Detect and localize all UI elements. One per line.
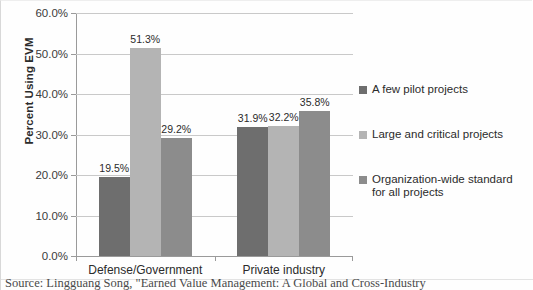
- y-tick-label: 0.0%: [42, 250, 68, 262]
- bar-value-label: 32.2%: [269, 111, 299, 123]
- source-caption-strip: Source: Lingguang Song, "Earned Value Ma…: [1, 279, 533, 290]
- bar-value-label: 29.2%: [161, 123, 191, 135]
- x-tick-mark: [215, 256, 216, 261]
- bar-value-label: 19.5%: [99, 162, 129, 174]
- x-tick-mark: [76, 256, 77, 261]
- gridline: [76, 94, 353, 95]
- gridline: [76, 54, 353, 55]
- y-tick-label: 40.0%: [35, 88, 68, 100]
- legend-item[interactable]: A few pilot projects: [359, 83, 468, 96]
- bar-value-label: 51.3%: [130, 33, 160, 45]
- x-tick-mark: [352, 256, 353, 261]
- y-tick-mark: [71, 13, 76, 14]
- gridline: [76, 13, 353, 14]
- bar-value-label: 31.9%: [238, 112, 268, 124]
- x-category-label: Private industry: [242, 263, 325, 277]
- y-tick-label: 30.0%: [35, 129, 68, 141]
- y-tick-label: 20.0%: [35, 169, 68, 181]
- legend-swatch-icon: [359, 176, 367, 184]
- bar: [130, 48, 161, 256]
- source-caption-text: Source: Lingguang Song, "Earned Value Ma…: [5, 279, 426, 290]
- y-tick-label: 50.0%: [35, 48, 68, 60]
- legend-item-label: Organization-wide standard for all proje…: [372, 173, 513, 199]
- legend-item-label: A few pilot projects: [372, 83, 468, 96]
- y-tick-mark: [71, 175, 76, 176]
- bar: [237, 127, 268, 256]
- legend-swatch-icon: [359, 86, 367, 94]
- bar-value-label: 35.8%: [300, 96, 330, 108]
- legend-swatch-icon: [359, 131, 367, 139]
- bar: [268, 126, 299, 256]
- legend-item[interactable]: Large and critical projects: [359, 128, 503, 141]
- y-axis-title: Percent Using EVM: [23, 11, 35, 171]
- x-category-label: Defense/Government: [88, 263, 202, 277]
- bar: [161, 138, 192, 256]
- legend-item-label: Large and critical projects: [372, 128, 503, 141]
- bar: [99, 177, 130, 256]
- y-tick-label: 60.0%: [35, 7, 68, 19]
- y-tick-mark: [71, 135, 76, 136]
- plot-area: 0.0%10.0%20.0%30.0%40.0%50.0%60.0% 19.5%…: [76, 13, 353, 256]
- legend-item[interactable]: Organization-wide standard for all proje…: [359, 173, 513, 199]
- bar: [299, 111, 330, 256]
- y-tick-label: 10.0%: [35, 210, 68, 222]
- y-tick-mark: [71, 216, 76, 217]
- y-tick-mark: [71, 54, 76, 55]
- y-tick-mark: [71, 94, 76, 95]
